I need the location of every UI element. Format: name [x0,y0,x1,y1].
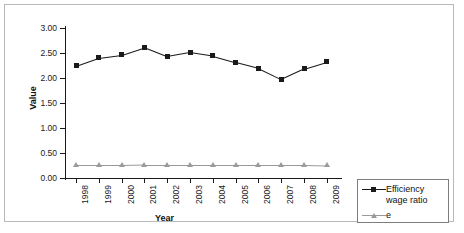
x-tick-label: 2000 [126,185,136,204]
data-point-marker [165,54,170,59]
y-tick [60,28,65,29]
data-point-marker [302,66,307,71]
x-tick [304,178,305,183]
x-axis-line [65,178,342,179]
y-tick-label: 2.50 [23,48,57,58]
x-tick [213,178,214,183]
y-tick-label: 0.00 [23,173,57,183]
x-tick-label: 2001 [148,185,158,204]
data-point-marker [188,50,193,55]
x-tick [167,178,168,183]
data-point-marker [279,77,284,82]
y-tick [60,153,65,154]
data-point-marker [256,66,261,71]
y-tick-label: 1.00 [23,123,57,133]
data-point-marker [210,53,215,58]
data-point-marker [233,162,239,167]
x-tick-label: 2003 [194,185,204,204]
x-tick [327,178,328,183]
x-tick [258,178,259,183]
legend-triangle-marker-icon [362,211,386,221]
legend-entry: Efficiency wage ratio [362,184,446,205]
y-tick [60,178,65,179]
data-point-marker [233,60,238,65]
x-tick [281,178,282,183]
chart-frame: 0.000.501.001.502.002.503.00 19981999200… [4,4,454,222]
x-tick-label: 2004 [217,185,227,204]
x-tick-label: 1999 [103,185,113,204]
y-tick-label: 2.00 [23,73,57,83]
x-tick-label: 2008 [308,185,318,204]
y-tick-label: 3.00 [23,23,57,33]
data-point-marker [96,55,101,60]
x-tick-label: 2005 [240,185,250,204]
data-point-marker [164,162,170,167]
x-tick [122,178,123,183]
x-tick-label: 2006 [262,185,272,204]
data-point-marker [119,162,125,167]
x-tick [76,178,77,183]
y-tick [60,78,65,79]
chart-legend: Efficiency wage ratioe [357,179,449,223]
data-point-marker [119,52,124,57]
data-point-marker [278,162,284,167]
data-point-marker [255,162,261,167]
data-point-marker [96,162,102,167]
legend-marker [371,213,377,218]
y-tick-label: 0.50 [23,148,57,158]
x-tick-label: 1998 [80,185,90,204]
x-tick [99,178,100,183]
data-point-marker [73,162,79,167]
legend-square-marker-icon [362,185,386,195]
y-tick [60,128,65,129]
plot-area [65,28,340,178]
x-tick-label: 2007 [285,185,295,204]
legend-entry: e [362,210,391,221]
y-axis-line [65,26,66,180]
data-point-marker [210,162,216,167]
data-point-marker [301,162,307,167]
data-point-marker [324,59,329,64]
legend-label: Efficiency wage ratio [386,184,446,205]
y-tick [60,103,65,104]
y-tick [60,53,65,54]
x-tick [190,178,191,183]
data-point-marker [187,162,193,167]
x-tick [144,178,145,183]
legend-label: e [386,210,391,221]
x-axis-title: Year [155,213,174,223]
data-point-marker [74,63,79,68]
data-point-marker [324,162,330,167]
x-tick-label: 2002 [171,185,181,204]
x-tick-label: 2009 [331,185,341,204]
x-tick [236,178,237,183]
legend-marker [371,187,376,192]
data-point-marker [141,162,147,167]
data-point-marker [142,45,147,50]
y-axis-title: Value [28,86,38,110]
